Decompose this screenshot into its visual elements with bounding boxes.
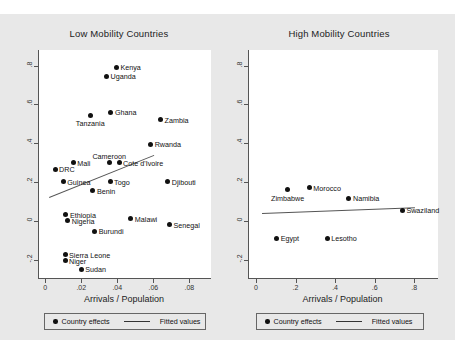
xaxis-title-high-mobility: Arrivals / Population: [248, 294, 437, 304]
ytick-label-high-1: .6: [236, 92, 243, 114]
data-point-low-3: [88, 113, 93, 118]
ytick-label-low-3: .2: [26, 169, 33, 191]
legend-item-country-effects: Country effects: [265, 317, 322, 326]
ytick-high-3: [244, 182, 248, 183]
ytick-label-high-5: -.2: [236, 247, 243, 269]
data-point-low-1: [104, 74, 109, 79]
data-point-high-4: [274, 236, 279, 241]
ytick-label-low-1: .6: [26, 92, 33, 114]
xtick-label-high-1: .2: [284, 284, 308, 291]
ytick-label-high-0: .8: [236, 53, 243, 75]
xtick-label-low-1: .02: [69, 284, 93, 291]
ytick-high-0: [244, 66, 248, 67]
data-point-low-5: [148, 142, 153, 147]
xtick-low-1: [81, 279, 82, 283]
legend-dot-icon: [53, 319, 58, 324]
data-point-label-low-9: DRC: [59, 165, 75, 174]
legend-label-fitted-values: Fitted values: [372, 317, 413, 326]
data-point-low-9: [53, 167, 58, 172]
xtick-label-high-3: .6: [363, 284, 387, 291]
data-point-label-low-7: Cote d'Ivoire: [123, 159, 163, 168]
ytick-label-low-5: -.2: [26, 247, 33, 269]
data-point-label-high-3: Swaziland: [406, 206, 439, 215]
ytick-high-5: [244, 260, 248, 261]
data-point-low-7: [117, 160, 122, 165]
data-point-label-high-1: Zimbabwe: [271, 194, 304, 203]
legend-line-icon: [336, 321, 362, 322]
legend-label-country-effects: Country effects: [274, 317, 322, 326]
data-point-label-low-11: Togo: [114, 178, 130, 187]
legend-item-fitted-values: Fitted values: [124, 317, 201, 326]
ytick-label-low-2: .4: [26, 131, 33, 153]
ytick-low-3: [34, 182, 38, 183]
ytick-low-5: [34, 260, 38, 261]
ytick-label-high-4: 0: [236, 208, 243, 230]
data-point-label-low-2: Ghana: [115, 108, 137, 117]
ytick-label-high-2: .4: [236, 131, 243, 153]
data-point-label-high-0: Morocco: [313, 184, 341, 193]
data-point-label-low-0: Kenya: [120, 63, 140, 72]
data-point-low-20: [63, 258, 68, 263]
panel-low-mobility: Low Mobility Countries Arrivals / Popula…: [8, 14, 230, 340]
data-point-label-low-17: Senegal: [174, 221, 200, 230]
data-point-label-low-1: Uganda: [110, 72, 135, 81]
ytick-label-low-0: .8: [26, 53, 33, 75]
data-point-low-21: [79, 267, 84, 272]
panel-title-low-mobility: Low Mobility Countries: [8, 28, 230, 39]
figure-canvas: Low Mobility Countries Arrivals / Popula…: [0, 14, 455, 340]
ytick-low-2: [34, 143, 38, 144]
ytick-low-1: [34, 104, 38, 105]
data-point-low-6: [107, 160, 112, 165]
data-point-label-low-5: Rwanda: [155, 140, 181, 149]
xtick-low-4: [189, 279, 190, 283]
data-point-label-high-5: Lesotho: [331, 234, 357, 243]
legend-label-fitted-values: Fitted values: [160, 317, 201, 326]
data-point-label-low-13: Benin: [97, 187, 115, 196]
xtick-label-low-3: .06: [141, 284, 165, 291]
data-point-label-low-12: Djibouti: [172, 178, 196, 187]
data-point-label-low-8: Mali: [77, 159, 90, 168]
ytick-high-1: [244, 104, 248, 105]
ytick-low-4: [34, 221, 38, 222]
xtick-high-2: [335, 279, 336, 283]
legend-label-country-effects: Country effects: [62, 317, 110, 326]
xtick-label-low-2: .04: [105, 284, 129, 291]
data-point-label-low-18: Burundi: [99, 227, 124, 236]
xtick-label-low-0: 0: [33, 284, 57, 291]
legend-item-fitted-values: Fitted values: [336, 317, 413, 326]
xtick-low-2: [117, 279, 118, 283]
plot-area-high-mobility: [248, 50, 438, 279]
legend-item-country-effects: Country effects: [53, 317, 110, 326]
xtick-high-3: [375, 279, 376, 283]
data-point-label-low-6: Cameroon: [92, 152, 126, 161]
xtick-low-3: [153, 279, 154, 283]
data-point-label-low-15: Nigeria: [72, 217, 95, 226]
panel-title-high-mobility: High Mobility Countries: [230, 28, 448, 39]
data-point-label-low-10: Guinea: [67, 178, 90, 187]
data-point-label-low-21: Sudan: [85, 265, 106, 274]
data-point-label-low-3: Tanzania: [76, 119, 105, 128]
data-point-label-high-2: Namibia: [353, 194, 379, 203]
xtick-label-high-4: .8: [402, 284, 426, 291]
legend-dot-icon: [265, 319, 270, 324]
data-point-high-5: [325, 236, 330, 241]
data-point-low-8: [71, 160, 76, 165]
xtick-high-0: [256, 279, 257, 283]
data-point-label-high-4: Egypt: [281, 234, 299, 243]
data-point-label-low-4: Zambia: [165, 116, 189, 125]
data-point-high-3: [400, 208, 405, 213]
data-point-label-low-16: Malawi: [135, 215, 157, 224]
xaxis-title-low-mobility: Arrivals / Population: [38, 294, 210, 304]
legend-high-mobility: Country effects Fitted values: [256, 313, 424, 330]
ytick-label-low-4: 0: [26, 208, 33, 230]
xtick-low-0: [45, 279, 46, 283]
ytick-low-0: [34, 66, 38, 67]
ytick-high-2: [244, 143, 248, 144]
legend-low-mobility: Country effects Fitted values: [44, 313, 206, 330]
xtick-label-low-4: .08: [177, 284, 201, 291]
legend-line-icon: [124, 321, 150, 322]
xtick-label-high-2: .4: [323, 284, 347, 291]
panel-high-mobility: High Mobility Countries Arrivals / Popul…: [230, 14, 448, 340]
ytick-high-4: [244, 221, 248, 222]
xtick-high-4: [414, 279, 415, 283]
